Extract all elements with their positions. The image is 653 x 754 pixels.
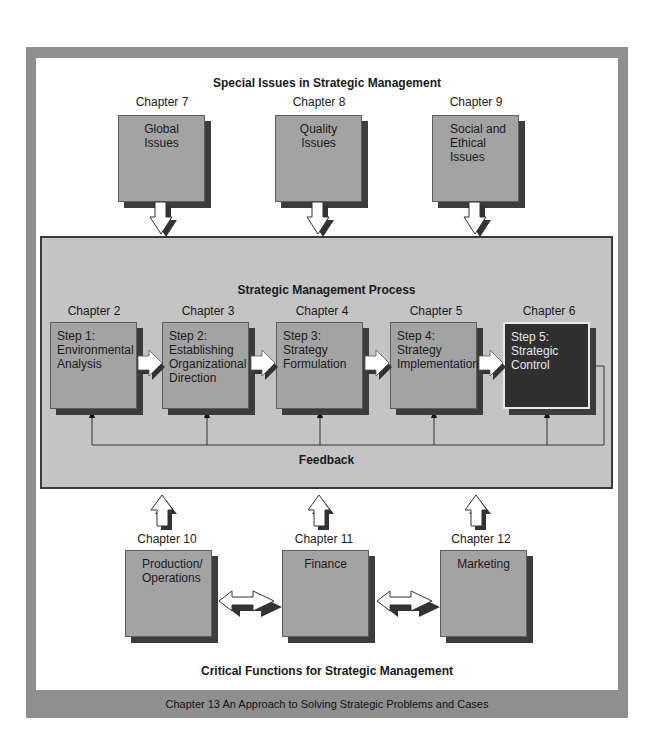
double-arrows bbox=[0, 0, 653, 754]
critical-functions-title: Critical Functions for Strategic Managem… bbox=[36, 664, 618, 678]
double-arrow-icon bbox=[219, 591, 282, 617]
double-arrow-icon bbox=[377, 591, 440, 617]
footer-caption: Chapter 13 An Approach to Solving Strate… bbox=[26, 690, 628, 718]
